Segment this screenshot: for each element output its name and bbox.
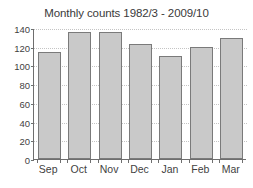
x-tick-mark (151, 160, 152, 163)
y-tick-label: 100 (14, 61, 30, 72)
y-tick-label: 60 (19, 98, 30, 109)
x-tick-mark (212, 160, 213, 163)
x-tick-mark (60, 160, 61, 163)
chart-figure: Monthly counts 1982/3 - 2009/10 02040608… (0, 0, 253, 188)
y-tick-label: 140 (14, 24, 30, 35)
x-tick-label: Jan (161, 163, 178, 175)
x-tick-label: Nov (100, 163, 119, 175)
x-tick-mark (121, 160, 122, 163)
x-tick-label: Mar (222, 163, 240, 175)
x-tick-label: Dec (130, 163, 149, 175)
x-axis: SepOctNovDecJanFebMar (33, 0, 246, 188)
x-tick-label: Feb (191, 163, 209, 175)
x-tick-mark (98, 160, 99, 163)
x-tick-mark (181, 160, 182, 163)
y-tick-label: 40 (19, 117, 30, 128)
x-tick-mark (128, 160, 129, 163)
x-tick-mark (242, 160, 243, 163)
x-tick-label: Oct (70, 163, 86, 175)
x-tick-mark (37, 160, 38, 163)
y-tick-label: 120 (14, 42, 30, 53)
x-tick-mark (219, 160, 220, 163)
y-tick-label: 20 (19, 136, 30, 147)
y-tick-label: 0 (25, 155, 30, 166)
y-tick-label: 80 (19, 80, 30, 91)
x-tick-mark (90, 160, 91, 163)
x-tick-mark (189, 160, 190, 163)
x-tick-label: Sep (39, 163, 58, 175)
x-tick-mark (67, 160, 68, 163)
x-tick-mark (158, 160, 159, 163)
